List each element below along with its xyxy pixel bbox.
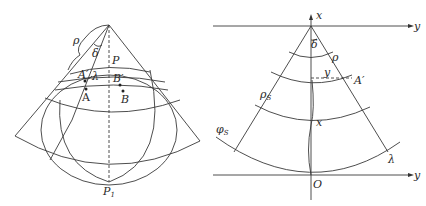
label-phi-s: φS — [216, 123, 229, 137]
label-x-mid: x — [316, 116, 323, 129]
label-rho: ρ — [72, 34, 80, 47]
x-axis-arrow-icon — [309, 14, 313, 20]
label-y-top: y — [413, 20, 421, 33]
dev-arc-phi-s — [216, 137, 400, 172]
label-rho-s: ρS — [259, 88, 271, 102]
label-delta-right: δ — [311, 38, 318, 51]
label-delta: δ — [92, 47, 99, 60]
label-origin: O — [313, 178, 322, 191]
developed-cone-left-edge — [234, 26, 311, 152]
label-lambda: λ — [91, 70, 99, 83]
parallel-arc-4 — [45, 98, 180, 112]
developed-cone-right-edge — [311, 26, 388, 152]
label-lambda-right: λ — [387, 153, 395, 166]
label-B: B — [120, 93, 129, 106]
label-B-prime: B′ — [112, 72, 124, 85]
diagram-canvas: ρ δ P A′ λ B′ A B P1 x y δ — [0, 0, 426, 206]
label-y-bottom: y — [413, 169, 421, 182]
parallel-arc-2 — [58, 77, 165, 82]
label-A-prime-right: A′ — [353, 74, 365, 87]
parallel-arc-3 — [55, 85, 168, 90]
label-A: A — [81, 91, 91, 104]
label-A-prime: A′ — [77, 68, 89, 81]
label-x-top: x — [316, 9, 323, 22]
meridian-ellipse-left — [60, 100, 109, 182]
label-P1: P1 — [102, 185, 115, 199]
label-P: P — [111, 54, 120, 67]
right-panel: x y δ ρ y A′ ρS x φS λ y O — [213, 9, 421, 200]
left-panel: ρ δ P A′ λ B′ A B P1 — [15, 25, 200, 199]
label-rho-right: ρ — [331, 51, 339, 64]
label-y-mid: y — [323, 66, 331, 79]
